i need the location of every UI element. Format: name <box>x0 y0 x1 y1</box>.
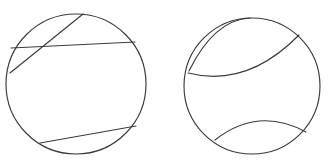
diagram-svg <box>0 0 330 166</box>
right-arc-bottom <box>215 121 306 140</box>
left-circle-outline <box>6 14 146 154</box>
right-circle-group <box>184 18 320 154</box>
left-chord-lower <box>40 126 136 143</box>
left-chord-upper-long <box>11 42 135 48</box>
right-circle-outline <box>184 18 320 154</box>
left-circle-group <box>6 14 146 154</box>
right-arc-from-upper-right <box>188 35 299 76</box>
figure-canvas <box>0 0 330 166</box>
left-chord-upper-steep <box>10 14 83 73</box>
